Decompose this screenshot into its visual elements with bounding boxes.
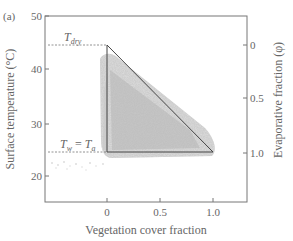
t-dry-annotation: Tdry [64,30,82,46]
x-tick-label: 0 [104,206,110,218]
x-axis [107,198,213,202]
y-axis-label: Surface temperature (°C) [3,49,17,170]
y2-tick-label: 1.0 [250,147,264,159]
y-tick-label: 40 [31,63,43,75]
y2-tick-label: 0 [250,39,256,51]
x-axis-label: Vegetation cover fraction [85,223,206,237]
y-axis-right [243,45,247,153]
chart: 50 40 30 20 0 0.5 1.0 0 0.5 1.0 Vegetati… [0,0,293,241]
y-tick-label: 30 [31,118,43,130]
y2-tick-label: 0.5 [250,92,264,104]
t-wet-annotation: Tw = Ta [60,137,96,153]
x-tick-label: 1.0 [206,206,220,218]
x-tick-label: 0.5 [153,206,167,218]
y2-axis-label: Evaporative fraction (φ) [271,42,285,158]
y-tick-label: 20 [31,170,43,182]
panel-label: (a) [3,10,16,23]
y-tick-label: 50 [31,10,43,22]
